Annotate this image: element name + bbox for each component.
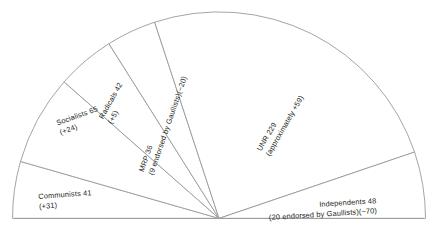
semicircle-pie-chart: Communists 41 (+31) Socialists 65 (+24) … <box>0 0 437 244</box>
pie-svg <box>0 0 437 244</box>
wedge-group <box>13 12 426 219</box>
